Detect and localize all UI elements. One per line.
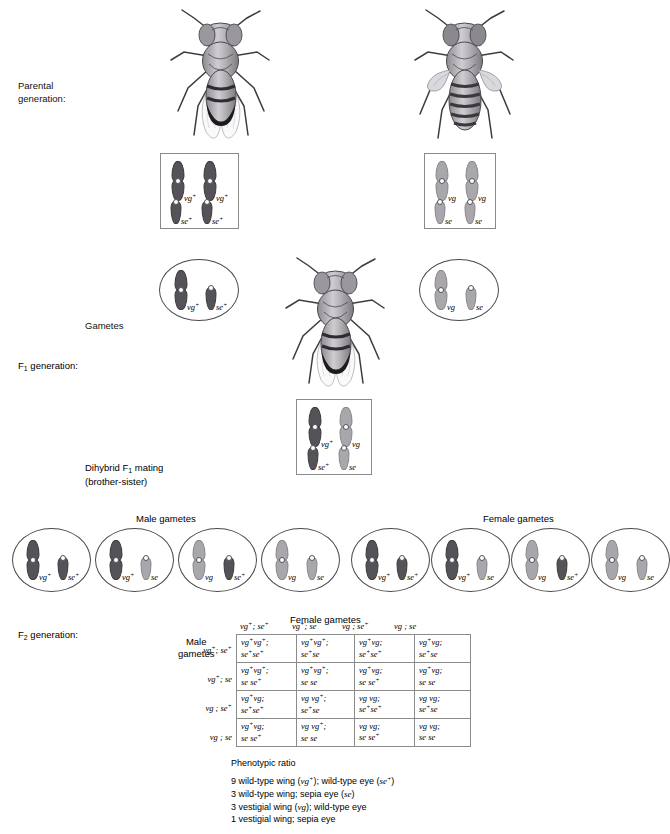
chromosome-se: se — [140, 554, 151, 580]
punnett-row-header-3: vg ; se+ — [186, 703, 232, 713]
punnett-cell-r4-c2: vg vg+;se se — [297, 719, 355, 747]
chromosome-vg-plus: vg+ — [109, 540, 122, 580]
punnett-row-4: vg+vg;se se+vg vg+;se sevg vg;se se+vg v… — [237, 719, 471, 747]
male-gamete-circle-4: vgse — [261, 528, 340, 592]
chromosome-vg-plus: vg+ — [308, 407, 321, 447]
chromosome-vg-plus: vg+ — [445, 540, 458, 580]
punnett-cell-r1-c4: vg+vg;se+se — [415, 635, 471, 663]
punnett-cell-r4-c1: vg+vg;se se+ — [237, 719, 297, 747]
phenotypic-ratio-line-1: 9 wild-type wing (vg+); wild-type eye (s… — [231, 775, 394, 789]
chromosome-vg: vg — [605, 540, 618, 580]
chromosome-se: se — [306, 554, 317, 580]
punnett-row-header-1: vg+; se+ — [186, 645, 232, 655]
punnett-cell-r2-c4: vg+vg;se se — [415, 663, 471, 691]
chromosome-vg-plus-1: vg+ — [171, 161, 184, 201]
chromosome-vg: vg — [275, 540, 288, 580]
chromosome-vg-plus: vg+ — [365, 540, 378, 580]
chromosome-vg: vg — [525, 540, 538, 580]
vestigial-sepia-parent-genotype-box: vg vg se se — [424, 153, 496, 229]
punnett-cell-r4-c3: vg vg;se se+ — [355, 719, 415, 747]
f1-genotype-box: vg+ vg se+ se — [296, 399, 372, 475]
punnett-cell-r2-c1: vg+vg+;se se+ — [237, 663, 297, 691]
chromosome-se-plus: se+ — [57, 554, 68, 580]
chromosome-se-plus: se+ — [223, 554, 234, 580]
punnett-cell-r2-c3: vg+vg;se se+ — [355, 663, 415, 691]
chromosome-vg: vg — [339, 407, 352, 447]
chromosome-se-plus-2: se+ — [201, 198, 212, 224]
chromosome-se-2: se — [464, 198, 475, 224]
phenotypic-ratio-line-2: 3 wild-type wing; sepia eye (se) — [231, 788, 394, 801]
wild-type-parent-genotype-box: vg+ vg+ se+ se+ — [160, 153, 239, 229]
male-gametes-heading: Male gametes — [136, 513, 196, 524]
punnett-col-header-4: vg ; se — [394, 621, 442, 631]
punnett-col-header-3: vg ; se+ — [342, 621, 394, 631]
punnett-row-1: vg+vg+;se+se+vg+vg+;se+sevg+vg;se+se+vg+… — [237, 635, 471, 663]
gametes-label: Gametes — [85, 319, 124, 332]
wild-type-parent-fly-illustration — [168, 8, 272, 154]
chromosome-se-plus-1: se+ — [170, 198, 181, 224]
chromosome-se: se — [338, 444, 349, 470]
parental-gamete-circle-left: vg+ se+ — [159, 259, 239, 321]
phenotypic-ratio-line-4: 1 vestigial wing; sepia eye — [231, 813, 394, 826]
female-gamete-circle-1: vg+se+ — [351, 528, 430, 592]
male-gamete-circle-1: vg+se+ — [12, 528, 91, 592]
punnett-cell-r3-c4: vg vg;se+se — [415, 691, 471, 719]
punnett-cell-r1-c3: vg+vg;se+se+ — [355, 635, 415, 663]
punnett-row-3: vg+vg;se+se+vg vg+;se+sevg vg;se+se+vg v… — [237, 691, 471, 719]
f2-generation-label: F2 generation: — [18, 628, 78, 642]
punnett-cell-r2-c2: vg+vg+;se se — [297, 663, 355, 691]
punnett-cell-r3-c1: vg+vg;se+se+ — [237, 691, 297, 719]
chromosome-vg: vg — [434, 270, 447, 310]
parental-gamete-circle-right: vg se — [419, 259, 499, 321]
dihybrid-mating-label: Dihybrid F1 mating(brother-sister) — [85, 461, 163, 488]
chromosome-se-plus: se+ — [396, 554, 407, 580]
chromosome-se: se — [465, 284, 476, 310]
male-gamete-circle-3: vgse+ — [178, 528, 257, 592]
chromosome-se: se — [636, 554, 647, 580]
phenotypic-ratio-block: Phenotypic ratio 9 wild-type wing (vg+);… — [231, 757, 394, 826]
phenotypic-ratio-line-3: 3 vestigial wing (vg); wild-type eye — [231, 801, 394, 814]
punnett-cell-r1-c2: vg+vg+;se+se — [297, 635, 355, 663]
punnett-cell-r3-c2: vg vg+;se+se — [297, 691, 355, 719]
chromosome-se-1: se — [434, 198, 445, 224]
chromosome-vg-plus-2: vg+ — [203, 161, 216, 201]
punnett-cell-r4-c4: vg vg;se se — [415, 719, 471, 747]
parental-generation-label: Parental generation: — [18, 79, 66, 105]
punnett-column-headers: vg+; se+vg+; sevg ; se+vg ; se — [236, 621, 446, 635]
chromosome-vg: vg — [192, 540, 205, 580]
chromosome-se-plus: se+ — [205, 284, 216, 310]
phenotypic-ratio-heading: Phenotypic ratio — [231, 757, 394, 770]
female-gametes-heading: Female gametes — [483, 513, 554, 524]
vestigial-sepia-parent-fly-illustration — [412, 8, 516, 154]
phenotypic-ratio-lines: 9 wild-type wing (vg+); wild-type eye (s… — [231, 775, 394, 826]
male-gamete-circle-2: vg+se — [95, 528, 174, 592]
chromosome-vg-plus: vg+ — [174, 270, 187, 310]
punnett-row-header-2: vg+; se — [186, 674, 232, 684]
f1-generation-label: F1 generation: — [18, 359, 78, 373]
punnett-cell-r1-c1: vg+vg+;se+se+ — [237, 635, 297, 663]
chromosome-se-plus: se+ — [556, 554, 567, 580]
f1-fly-illustration — [283, 256, 387, 402]
chromosome-se-plus: se+ — [307, 444, 318, 470]
punnett-col-header-1: vg+; se+ — [240, 621, 292, 631]
chromosome-vg-2: vg — [465, 161, 478, 201]
punnett-cell-r3-c3: vg vg;se+se+ — [355, 691, 415, 719]
punnett-square-table: vg+vg+;se+se+vg+vg+;se+sevg+vg;se+se+vg+… — [236, 634, 471, 747]
female-gamete-circle-4: vgse — [591, 528, 670, 592]
punnett-col-header-2: vg+; se — [292, 621, 342, 631]
chromosome-vg-1: vg — [435, 161, 448, 201]
female-gamete-circle-2: vg+se — [431, 528, 510, 592]
chromosome-vg-plus: vg+ — [26, 540, 39, 580]
punnett-row-2: vg+vg+;se se+vg+vg+;se sevg+vg;se se+vg+… — [237, 663, 471, 691]
punnett-row-header-4: vg ; se — [186, 732, 232, 742]
female-gamete-circle-3: vgse+ — [511, 528, 590, 592]
chromosome-se: se — [476, 554, 487, 580]
